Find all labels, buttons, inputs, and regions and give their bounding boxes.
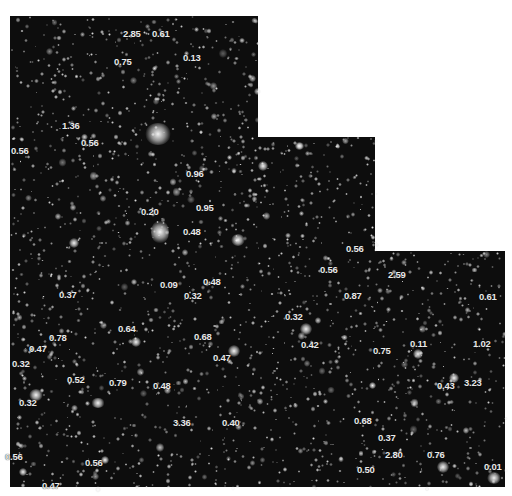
- background-galaxy: [214, 328, 217, 332]
- background-galaxy: [306, 377, 308, 378]
- background-galaxy: [329, 171, 331, 173]
- background-galaxy: [354, 309, 358, 312]
- background-galaxy: [78, 289, 82, 293]
- background-galaxy: [161, 200, 164, 202]
- background-galaxy: [370, 173, 372, 175]
- background-galaxy: [395, 481, 399, 484]
- background-galaxy: [427, 299, 429, 301]
- background-galaxy: [284, 197, 288, 201]
- background-galaxy: [111, 157, 115, 161]
- background-galaxy: [399, 295, 403, 300]
- background-galaxy: [53, 74, 57, 78]
- background-galaxy: [219, 245, 223, 248]
- background-galaxy: [250, 346, 252, 348]
- background-galaxy: [335, 220, 337, 222]
- background-galaxy: [68, 425, 71, 427]
- background-galaxy: [131, 444, 135, 447]
- background-galaxy: [241, 139, 245, 144]
- background-galaxy: [240, 192, 244, 195]
- background-galaxy: [82, 450, 84, 452]
- background-galaxy: [186, 73, 188, 75]
- background-galaxy: [377, 364, 380, 369]
- background-galaxy: [390, 414, 393, 417]
- background-galaxy: [168, 302, 172, 305]
- background-galaxy: [122, 241, 126, 246]
- background-galaxy: [139, 250, 143, 253]
- background-galaxy: [341, 335, 348, 340]
- background-galaxy: [294, 184, 298, 188]
- background-galaxy: [148, 331, 150, 333]
- background-galaxy: [139, 474, 142, 478]
- background-galaxy: [474, 352, 476, 353]
- background-galaxy: [78, 355, 81, 359]
- background-galaxy: [52, 19, 57, 26]
- background-galaxy: [119, 142, 123, 146]
- background-galaxy: [64, 74, 67, 78]
- background-galaxy: [389, 257, 393, 262]
- background-galaxy: [310, 175, 312, 177]
- background-galaxy: [20, 188, 23, 192]
- background-galaxy: [286, 241, 290, 245]
- background-galaxy: [321, 242, 323, 244]
- background-galaxy: [475, 485, 478, 487]
- redshift-label: 0.32: [19, 398, 37, 408]
- background-galaxy: [224, 437, 226, 439]
- background-galaxy: [198, 46, 201, 49]
- background-galaxy: [295, 180, 298, 182]
- background-galaxy: [57, 70, 61, 73]
- background-galaxy: [258, 177, 262, 181]
- background-galaxy: [425, 486, 429, 492]
- background-galaxy: [478, 445, 480, 447]
- redshift-label: 0.61: [152, 29, 170, 39]
- background-galaxy: [375, 243, 379, 247]
- background-galaxy: [25, 282, 28, 286]
- background-galaxy: [265, 344, 267, 345]
- background-galaxy: [247, 465, 251, 470]
- background-galaxy: [34, 146, 38, 151]
- background-galaxy: [263, 183, 267, 188]
- background-galaxy: [332, 444, 334, 446]
- background-galaxy: [220, 187, 222, 189]
- background-galaxy: [152, 111, 155, 113]
- background-galaxy: [173, 319, 176, 322]
- background-galaxy: [288, 293, 292, 295]
- background-galaxy: [218, 165, 221, 167]
- background-galaxy: [316, 303, 318, 305]
- background-galaxy: [358, 284, 360, 287]
- background-galaxy: [125, 268, 128, 272]
- background-galaxy: [284, 342, 286, 344]
- background-galaxy: [431, 365, 436, 369]
- background-galaxy: [241, 455, 244, 459]
- background-galaxy: [62, 474, 64, 475]
- background-galaxy: [373, 310, 376, 313]
- background-galaxy: [256, 242, 258, 244]
- background-galaxy: [58, 323, 61, 326]
- background-galaxy: [282, 384, 284, 386]
- background-galaxy: [115, 217, 117, 219]
- background-galaxy: [41, 308, 43, 310]
- background-galaxy: [418, 484, 421, 487]
- background-galaxy: [353, 388, 356, 391]
- background-galaxy: [77, 301, 79, 303]
- background-galaxy: [353, 406, 356, 409]
- background-galaxy: [141, 257, 144, 260]
- background-galaxy: [414, 368, 416, 370]
- background-galaxy: [201, 152, 204, 156]
- background-galaxy: [242, 72, 246, 76]
- background-galaxy: [92, 292, 95, 294]
- redshift-label: 0.96: [186, 169, 204, 179]
- background-galaxy: [81, 78, 85, 82]
- background-galaxy: [263, 243, 267, 249]
- background-galaxy: [33, 139, 36, 141]
- background-galaxy: [348, 231, 350, 233]
- background-galaxy: [305, 307, 309, 311]
- background-galaxy: [178, 87, 180, 90]
- background-galaxy: [23, 480, 25, 482]
- background-galaxy: [47, 449, 50, 453]
- background-galaxy: [285, 282, 287, 283]
- background-galaxy: [46, 123, 49, 126]
- background-galaxy: [238, 385, 240, 386]
- background-galaxy: [141, 281, 145, 284]
- background-galaxy: [266, 403, 269, 405]
- background-galaxy: [297, 254, 299, 256]
